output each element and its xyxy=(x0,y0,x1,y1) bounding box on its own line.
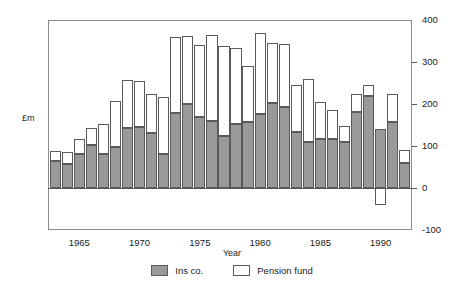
bar-group xyxy=(110,20,121,230)
bar-group xyxy=(375,20,386,230)
bar-group xyxy=(218,20,229,230)
bar-segment-pension-fund xyxy=(267,43,278,103)
bar-segment-pension-fund xyxy=(351,94,362,113)
bar-segment-pension-fund xyxy=(218,46,229,137)
bar-group xyxy=(399,20,410,230)
y-tick-mark xyxy=(412,104,417,105)
y-tick-label: 200 xyxy=(422,98,438,109)
bar-segment-pension-fund xyxy=(194,45,205,117)
bar-group xyxy=(62,20,73,230)
bar-segment-pension-fund xyxy=(170,37,181,113)
bar-group xyxy=(194,20,205,230)
bar-group xyxy=(327,20,338,230)
legend-item-ins-co: Ins co. xyxy=(151,265,203,276)
bar-segment-ins-co xyxy=(327,139,338,188)
bar-segment-ins-co xyxy=(134,127,145,188)
bar-group xyxy=(98,20,109,230)
bar-segment-pension-fund xyxy=(134,81,145,127)
x-tick-label: 1965 xyxy=(59,237,99,248)
x-tick-label: 1990 xyxy=(361,237,401,248)
bar-segment-pension-fund xyxy=(62,152,73,164)
bar-segment-ins-co xyxy=(399,163,410,188)
bar-group xyxy=(74,20,85,230)
bar-group xyxy=(170,20,181,230)
bar-group xyxy=(351,20,362,230)
bar-segment-ins-co xyxy=(315,139,326,188)
bar-segment-ins-co xyxy=(375,129,386,188)
bar-segment-pension-fund xyxy=(291,85,302,132)
y-tick-mark xyxy=(412,188,417,189)
bar-segment-ins-co xyxy=(255,114,266,188)
bar-segment-pension-fund xyxy=(158,97,169,154)
bar-group xyxy=(387,20,398,230)
y-tick-label: 0 xyxy=(422,182,427,193)
bar-group xyxy=(230,20,241,230)
bar-segment-ins-co xyxy=(50,161,61,188)
bar-segment-pension-fund xyxy=(230,48,241,124)
bar-segment-ins-co xyxy=(62,164,73,188)
legend-swatch-pension-fund xyxy=(233,265,250,276)
bar-segment-pension-fund xyxy=(98,124,109,154)
bar-group xyxy=(134,20,145,230)
bar-segment-ins-co xyxy=(230,124,241,188)
y-tick-mark xyxy=(412,62,417,63)
bar-segment-ins-co xyxy=(218,136,229,188)
x-tick-label: 1980 xyxy=(240,237,280,248)
x-tick-label: 1975 xyxy=(180,237,220,248)
bar-segment-ins-co xyxy=(194,117,205,188)
legend-label-ins-co: Ins co. xyxy=(175,265,203,276)
bar-segment-ins-co xyxy=(206,121,217,188)
bar-segment-ins-co xyxy=(339,142,350,188)
bar-segment-pension-fund xyxy=(327,110,338,139)
bar-segment-pension-fund xyxy=(363,85,374,96)
legend-label-pension-fund: Pension fund xyxy=(257,265,312,276)
bar-segment-pension-fund xyxy=(50,151,61,160)
bar-group xyxy=(86,20,97,230)
y-axis-title: £m xyxy=(22,113,35,123)
bar-segment-ins-co xyxy=(267,103,278,188)
zero-baseline xyxy=(48,188,412,189)
y-tick-mark xyxy=(412,146,417,147)
bar-segment-ins-co xyxy=(182,104,193,188)
bar-segment-ins-co xyxy=(291,132,302,188)
bar-group xyxy=(315,20,326,230)
bar-segment-ins-co xyxy=(74,154,85,188)
y-tick-label: 100 xyxy=(422,140,438,151)
bar-segment-pension-fund xyxy=(387,94,398,121)
bar-segment-ins-co xyxy=(170,113,181,188)
bar-segment-pension-fund xyxy=(74,139,85,154)
bar-group xyxy=(206,20,217,230)
bar-segment-pension-fund xyxy=(182,36,193,104)
bar-segment-pension-fund xyxy=(399,150,410,163)
bar-segment-pension-fund xyxy=(86,128,97,145)
y-tick-label: 400 xyxy=(422,14,438,25)
bar-segment-ins-co xyxy=(351,112,362,188)
bar-segment-pension-fund xyxy=(110,101,121,147)
bar-segment-ins-co xyxy=(363,96,374,188)
bar-segment-pension-fund xyxy=(206,35,217,121)
bar-segment-pension-fund xyxy=(315,102,326,139)
y-tick-label: 300 xyxy=(422,56,438,67)
bar-segment-pension-fund xyxy=(303,79,314,142)
x-tick-label: 1985 xyxy=(300,237,340,248)
bar-segment-ins-co xyxy=(279,107,290,188)
bar-segment-pension-fund xyxy=(255,33,266,114)
legend-swatch-ins-co xyxy=(151,265,168,276)
bar-segment-pension-fund xyxy=(375,188,386,205)
bar-group xyxy=(50,20,61,230)
bar-group xyxy=(363,20,374,230)
bar-segment-ins-co xyxy=(86,145,97,188)
bar-segment-pension-fund xyxy=(339,126,350,142)
bar-segment-ins-co xyxy=(122,128,133,188)
bar-segment-ins-co xyxy=(146,133,157,188)
bar-group xyxy=(122,20,133,230)
bar-segment-ins-co xyxy=(98,154,109,188)
bar-group xyxy=(291,20,302,230)
bar-segment-ins-co xyxy=(110,147,121,188)
bar-segment-ins-co xyxy=(242,122,253,188)
bar-segment-ins-co xyxy=(387,122,398,188)
bar-segment-ins-co xyxy=(158,154,169,188)
bar-segment-pension-fund xyxy=(279,44,290,107)
bar-group xyxy=(182,20,193,230)
bar-group xyxy=(279,20,290,230)
